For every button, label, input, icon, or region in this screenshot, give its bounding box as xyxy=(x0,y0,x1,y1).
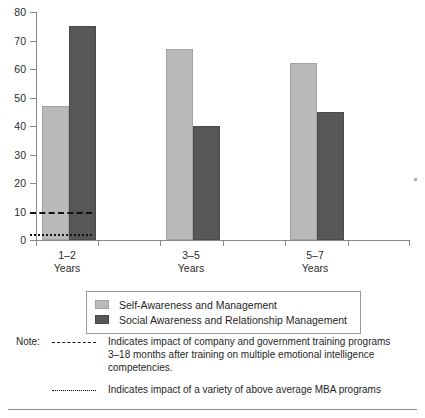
bar-social-awareness-1-2-years xyxy=(69,26,96,240)
x-group-range-2: 3–5 xyxy=(131,249,251,262)
note-dashed-rule-icon xyxy=(52,342,96,343)
x-group-range-1: 1–2 xyxy=(7,249,127,262)
note-dotted-line-1: Indicates impact of a variety of above a… xyxy=(108,383,408,396)
x-group-unit-3: Years xyxy=(255,262,375,275)
legend-swatch-dark-icon xyxy=(95,315,109,324)
x-group-label-3-5-years: 3–5 Years xyxy=(131,249,251,275)
chart-legend: Self-Awareness and Management Social Awa… xyxy=(86,291,361,334)
x-tick-2 xyxy=(160,240,161,246)
y-tick-label-40: 40 xyxy=(0,121,26,132)
x-tick-5 xyxy=(348,240,349,246)
note-dotted-text: Indicates impact of a variety of above a… xyxy=(108,383,408,396)
bars-layer xyxy=(36,12,410,240)
bar-social-awareness-5-7-years xyxy=(317,112,344,240)
note-dashed-text: Indicates impact of company and governme… xyxy=(108,335,408,374)
legend-swatch-light-icon xyxy=(95,300,109,309)
x-tick-1 xyxy=(98,240,99,246)
x-group-unit-1: Years xyxy=(7,262,127,275)
legend-item-self-awareness: Self-Awareness and Management xyxy=(95,297,352,312)
note-dashed-line-1: Indicates impact of company and governme… xyxy=(108,335,408,348)
note-dotted-rule-icon xyxy=(52,390,96,391)
reference-line-dotted xyxy=(30,234,92,236)
y-tick-label-50: 50 xyxy=(0,92,26,103)
bar-self-awareness-1-2-years xyxy=(42,106,69,240)
y-tick-label-10: 10 xyxy=(0,206,26,217)
bar-self-awareness-3-5-years xyxy=(166,49,193,240)
x-tick-6 xyxy=(409,240,410,246)
legend-item-social-awareness: Social Awareness and Relationship Manage… xyxy=(95,312,352,327)
bar-social-awareness-3-5-years xyxy=(193,126,220,240)
x-group-label-5-7-years: 5–7 Years xyxy=(255,249,375,275)
y-tick-label-20: 20 xyxy=(0,178,26,189)
y-tick-label-70: 70 xyxy=(0,35,26,46)
y-tick-label-30: 30 xyxy=(0,149,26,160)
legend-label-social-awareness: Social Awareness and Relationship Manage… xyxy=(119,314,347,326)
note-dashed: Note: Indicates impact of company and go… xyxy=(0,336,425,378)
x-tick-4 xyxy=(285,240,286,246)
x-group-range-3: 5–7 xyxy=(255,249,375,262)
x-tick-3 xyxy=(223,240,224,246)
note-dotted: Indicates impact of a variety of above a… xyxy=(0,384,425,404)
bar-chart: 80 70 60 50 40 30 20 10 0 1–2 Years xyxy=(0,0,425,282)
chart-notes: Note: Indicates impact of company and go… xyxy=(0,336,425,398)
bar-self-awareness-5-7-years xyxy=(290,63,317,240)
x-group-label-1-2-years: 1–2 Years xyxy=(7,249,127,275)
y-tick-label-80: 80 xyxy=(0,7,26,18)
x-tick-0 xyxy=(36,240,37,246)
reference-line-dashed xyxy=(30,212,92,214)
y-tick-label-0: 0 xyxy=(0,235,26,246)
note-dashed-line-2: 3–18 months after training on multiple e… xyxy=(108,348,408,361)
bottom-divider xyxy=(8,409,417,410)
legend-label-self-awareness: Self-Awareness and Management xyxy=(119,299,277,311)
x-group-unit-2: Years xyxy=(131,262,251,275)
note-dashed-line-3: competencies. xyxy=(108,361,408,374)
y-tick-label-60: 60 xyxy=(0,64,26,75)
note-label: Note: xyxy=(16,336,40,347)
page-speck xyxy=(414,178,417,181)
